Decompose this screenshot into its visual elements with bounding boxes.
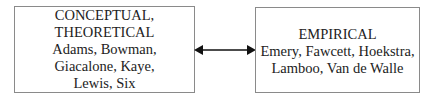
author-list: Lewis, Six [73,75,135,92]
box-heading: EMPIRICAL [298,26,376,43]
author-list: Adams, Bowman, [52,41,156,58]
author-list: Giacalone, Kaye, [54,58,154,75]
box-heading: THEORETICAL [55,24,155,41]
author-list: Lamboo, Van de Walle [272,60,404,77]
bidirectional-arrow-icon [194,42,256,58]
box-heading: CONCEPTUAL, [55,7,155,24]
empirical-box: EMPIRICAL Emery, Fawcett, Hoekstra, Lamb… [255,7,420,93]
author-list: Emery, Fawcett, Hoekstra, [260,43,414,60]
conceptual-theoretical-box: CONCEPTUAL, THEORETICAL Adams, Bowman, G… [14,6,195,93]
